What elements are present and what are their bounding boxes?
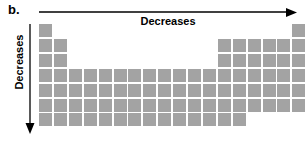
element-cell (248, 99, 261, 112)
element-cell (84, 99, 97, 112)
element-cell (188, 113, 201, 126)
element-cell (218, 39, 231, 52)
periodic-table-grid (39, 24, 307, 134)
element-cell (114, 113, 127, 126)
element-cell (39, 84, 52, 97)
element-cell (99, 113, 112, 126)
element-cell (248, 69, 261, 82)
arrow-down-icon (24, 24, 36, 134)
element-cell (203, 84, 216, 97)
element-cell (218, 54, 231, 67)
element-cell (218, 99, 231, 112)
element-cell (263, 69, 276, 82)
element-cell (69, 84, 82, 97)
element-cell (39, 54, 52, 67)
element-cell (114, 84, 127, 97)
element-cell (233, 84, 246, 97)
element-cell (277, 69, 290, 82)
element-cell (218, 84, 231, 97)
element-cell (54, 39, 67, 52)
element-cell (263, 54, 276, 67)
element-cell (54, 84, 67, 97)
element-cell (263, 99, 276, 112)
element-cell (128, 99, 141, 112)
element-cell (292, 99, 305, 112)
element-cell (292, 69, 305, 82)
periodic-trend-figure: b. Decreases Decreases (0, 0, 307, 141)
element-cell (173, 113, 186, 126)
element-cell (99, 99, 112, 112)
element-cell (143, 84, 156, 97)
element-cell (54, 69, 67, 82)
element-cell (143, 99, 156, 112)
element-cell (248, 84, 261, 97)
element-cell (54, 54, 67, 67)
element-cell (158, 99, 171, 112)
element-cell (158, 84, 171, 97)
element-cell (292, 39, 305, 52)
element-cell (84, 84, 97, 97)
element-cell (188, 69, 201, 82)
element-cell (114, 69, 127, 82)
element-cell (233, 99, 246, 112)
element-cell (39, 99, 52, 112)
element-cell (188, 99, 201, 112)
element-cell (173, 99, 186, 112)
element-cell (233, 39, 246, 52)
element-cell (233, 69, 246, 82)
element-cell (248, 39, 261, 52)
element-cell (54, 99, 67, 112)
element-cell (39, 113, 52, 126)
element-cell (158, 113, 171, 126)
element-cell (69, 113, 82, 126)
vertical-trend-label: Decreases (13, 7, 25, 117)
element-cell (39, 39, 52, 52)
element-cell (173, 69, 186, 82)
element-cell (248, 54, 261, 67)
element-cell (128, 113, 141, 126)
element-cell (128, 84, 141, 97)
element-cell (39, 69, 52, 82)
element-cell (203, 113, 216, 126)
element-cell (39, 24, 52, 37)
element-cell (292, 54, 305, 67)
element-cell (114, 99, 127, 112)
element-cell (292, 24, 305, 37)
element-cell (203, 99, 216, 112)
element-cell (69, 69, 82, 82)
element-cell (277, 84, 290, 97)
element-cell (277, 99, 290, 112)
element-cell (233, 54, 246, 67)
element-cell (69, 99, 82, 112)
element-cell (84, 69, 97, 82)
element-cell (292, 84, 305, 97)
element-cell (158, 69, 171, 82)
element-cell (277, 39, 290, 52)
element-cell (143, 113, 156, 126)
element-cell (203, 69, 216, 82)
element-cell (218, 113, 231, 126)
element-cell (99, 84, 112, 97)
element-cell (143, 69, 156, 82)
element-cell (188, 84, 201, 97)
element-cell (263, 39, 276, 52)
element-cell (128, 69, 141, 82)
element-cell (218, 69, 231, 82)
element-cell (99, 69, 112, 82)
element-cell (233, 113, 246, 126)
element-cell (277, 54, 290, 67)
element-cell (84, 113, 97, 126)
element-cell (54, 113, 67, 126)
element-cell (173, 84, 186, 97)
element-cell (263, 84, 276, 97)
